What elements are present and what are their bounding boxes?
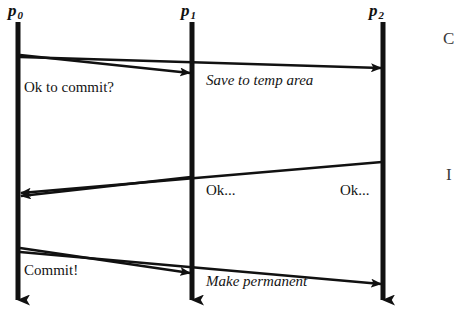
lifeline-label-p0: p0 [8,2,22,19]
message-arrow-save-to-temp-area [20,57,381,68]
message-label-ok-to-commit: Ok to commit? [24,80,114,95]
lifeline-subscript-p2: 2 [379,9,385,21]
lifeline-subscript-p0: 0 [18,9,24,21]
lifeline-subscript-p1: 1 [191,9,197,21]
lifeline-name-p2: p [369,1,378,20]
message-label-save-to-temp-area: Save to temp area [206,73,313,88]
message-label-ok-from-p1: Ok... [206,183,236,198]
lifeline-label-p2: p2 [369,2,383,19]
sequence-diagram: p0p1p2 Ok to commit?Save to temp areaOk.… [0,0,462,316]
message-arrow-ok-from-p2 [21,162,382,193]
lifeline-name-p0: p [8,1,17,20]
lifeline-label-p1: p1 [181,2,195,19]
message-label-ok-from-p2: Ok... [340,183,370,198]
message-label-make-permanent: Make permanent [206,274,307,289]
message-label-commit: Commit! [24,263,78,278]
fragment-mid-right: I [446,166,452,183]
fragment-top-right: C [443,30,454,47]
lifeline-name-p1: p [181,1,190,20]
